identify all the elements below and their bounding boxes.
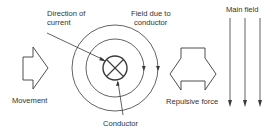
conductor-field-diagram: Movement Direction of current Field due … (0, 0, 275, 135)
arrow-down-icon (228, 100, 232, 107)
repulsive-force-label: Repulsive force (166, 97, 218, 106)
inner-circle-arrow-icon (142, 66, 146, 71)
repulsive-force-arrow-icon (170, 48, 216, 90)
field-due-to-conductor-label-line1: Field due to (131, 9, 171, 18)
direction-of-current-label-line2: current (47, 18, 72, 27)
movement-label: Movement (12, 96, 48, 105)
conductor-label: Conductor (103, 119, 139, 128)
conductor-cross-icon (103, 56, 127, 80)
direction-of-current-pointer (47, 33, 106, 62)
outer-circle-arrow-icon (156, 66, 160, 71)
field-due-to-conductor (72, 25, 160, 111)
arrow-down-icon (243, 100, 247, 107)
arrow-down-icon (258, 100, 262, 107)
direction-of-current-label-line1: Direction of (47, 9, 86, 18)
conductor-pointer (116, 81, 123, 116)
main-field-label: Main field (226, 5, 259, 14)
field-due-to-conductor-label-line2: conductor (134, 18, 168, 27)
movement-arrow-icon (23, 47, 48, 89)
main-field-lines (228, 18, 262, 107)
